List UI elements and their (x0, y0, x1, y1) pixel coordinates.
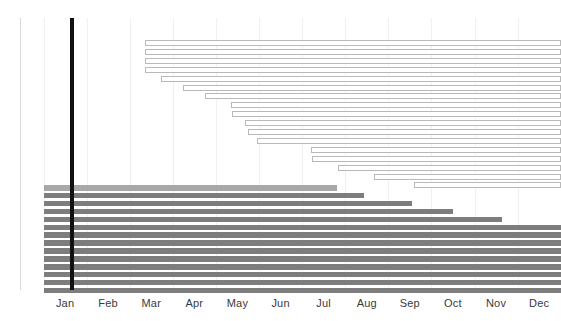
x-tick-label-aug: Aug (357, 297, 377, 309)
gantt-bar-actual[interactable] (44, 256, 561, 262)
x-tick-label-feb: Feb (98, 297, 118, 309)
x-tick-label-sep: Sep (400, 297, 420, 309)
gantt-bar-actual[interactable] (44, 217, 502, 223)
x-tick-label-dec: Dec (529, 297, 549, 309)
x-tick-label-nov: Nov (486, 297, 506, 309)
gantt-bar-planned[interactable] (205, 93, 561, 99)
gantt-bar-planned[interactable] (145, 49, 561, 55)
gantt-bar-actual[interactable] (44, 201, 413, 207)
gantt-bar-actual[interactable] (44, 185, 338, 191)
gantt-bar-actual[interactable] (44, 272, 561, 278)
y-axis-line (20, 18, 21, 290)
gantt-bar-actual[interactable] (44, 209, 453, 215)
gantt-bar-actual[interactable] (44, 280, 561, 286)
gantt-bar-planned[interactable] (338, 165, 560, 171)
x-tick-label-mar: Mar (141, 297, 161, 309)
gantt-bar-planned[interactable] (414, 182, 561, 188)
gantt-bar-planned[interactable] (145, 58, 561, 64)
gantt-bar-planned[interactable] (231, 102, 561, 108)
gantt-bar-actual[interactable] (44, 248, 561, 254)
x-tick-label-jul: Jul (316, 297, 331, 309)
x-axis-labels: JanFebMarAprMayJunJulAugSepOctNovDec (0, 292, 555, 321)
x-tick-label-jan: Jan (56, 297, 74, 309)
gantt-bar-planned[interactable] (374, 174, 561, 180)
x-tick-label-oct: Oct (444, 297, 462, 309)
x-tick-label-jun: Jun (271, 297, 289, 309)
gantt-bar-planned[interactable] (232, 111, 561, 117)
x-tick-label-may: May (227, 297, 248, 309)
gantt-bar-planned[interactable] (311, 147, 561, 153)
gantt-bar-planned[interactable] (245, 120, 561, 126)
gantt-bar-planned[interactable] (145, 67, 561, 73)
gantt-bar-actual[interactable] (44, 232, 561, 238)
gantt-bar-actual[interactable] (44, 264, 561, 270)
today-marker-line (70, 18, 74, 290)
x-tick-label-apr: Apr (185, 297, 203, 309)
gantt-bar-planned[interactable] (161, 76, 561, 82)
gantt-bar-actual[interactable] (44, 225, 561, 231)
gantt-bar-planned[interactable] (183, 85, 561, 91)
gantt-bar-planned[interactable] (248, 129, 561, 135)
gantt-bar-actual[interactable] (44, 240, 561, 246)
gantt-bar-actual[interactable] (44, 193, 365, 199)
gantt-bar-planned[interactable] (145, 40, 561, 46)
plot-area (0, 0, 555, 292)
gantt-bar-planned[interactable] (312, 156, 561, 162)
gantt-bar-planned[interactable] (257, 138, 561, 144)
